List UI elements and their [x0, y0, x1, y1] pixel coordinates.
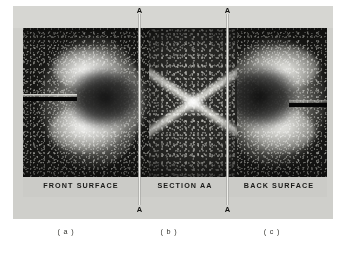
- edge-mark-bar: [289, 103, 327, 107]
- plate-top-band: [13, 6, 333, 28]
- photographic-strip: [23, 28, 327, 177]
- section-line-left: [138, 14, 141, 205]
- panel-section-aa: [149, 28, 237, 177]
- panel-label-front-surface: FRONT SURFACE: [23, 182, 139, 189]
- edge-mark-bar: [23, 97, 77, 101]
- panel-front-surface: [23, 28, 149, 177]
- section-marker-a-top-right: A: [222, 7, 233, 15]
- section-marker-a-bottom-left: A: [134, 206, 145, 214]
- front-surface-damage-zone: [23, 28, 149, 177]
- figure-plate: FRONT SURFACE SECTION AA BACK SURFACE A …: [13, 6, 333, 219]
- section-marker-a-top-left: A: [134, 7, 145, 15]
- section-line-right: [226, 14, 229, 205]
- panel-back-surface: [237, 28, 327, 177]
- crater-dark-core-blob: [67, 68, 143, 128]
- sub-caption-b: ( b ): [149, 228, 189, 235]
- panel-label-back-surface: BACK SURFACE: [231, 182, 327, 189]
- sub-caption-c: ( c ): [252, 228, 292, 235]
- sub-caption-a: ( a ): [46, 228, 86, 235]
- section-marker-a-bottom-right: A: [222, 206, 233, 214]
- panel-label-band: FRONT SURFACE SECTION AA BACK SURFACE: [23, 177, 327, 197]
- section-band-intersection: [180, 90, 206, 116]
- panel-label-section-aa: SECTION AA: [141, 182, 229, 189]
